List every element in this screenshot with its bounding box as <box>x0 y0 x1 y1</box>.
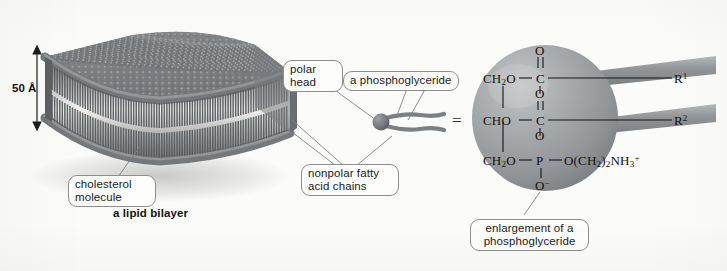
glycerol-c2: CHO <box>483 113 511 129</box>
glycerol-c3: CH2O <box>483 153 516 169</box>
r1-sup: 1 <box>683 71 688 81</box>
lipid-bilayer-figure: 50 Å polar head a phosphoglyceride nonpo… <box>0 0 727 271</box>
equals-sign: = <box>452 111 462 131</box>
head-group-nh: NH <box>611 153 630 168</box>
schematic-tail-2 <box>386 126 444 130</box>
glycerol-c1-o: O <box>506 71 516 86</box>
schematic-phosphoglyceride <box>373 114 445 131</box>
callout-nonpolar-chains[interactable]: nonpolar fatty acid chains <box>301 164 399 196</box>
head-group-o-ch: O(CH <box>564 153 597 168</box>
ester-oxygen-upper: O <box>535 86 545 102</box>
callout-phosphoglyceride[interactable]: a phosphoglyceride <box>343 71 459 91</box>
glycerol-c3-o: O <box>506 153 516 168</box>
schematic-tail-1 <box>386 114 444 118</box>
ethanolamine-group: O(CH2)2NH3+ <box>564 153 640 169</box>
phosphate-oxyanion: O− <box>535 178 550 194</box>
glycerol-c3-ch: CH <box>483 153 501 168</box>
bilayer-caption: a lipid bilayer <box>113 207 188 219</box>
oxyanion-o: O <box>535 178 545 193</box>
callout-polar-head[interactable]: polar head <box>283 60 343 92</box>
ester-oxygen-lower: O <box>535 128 545 144</box>
callout-cholesterol[interactable]: cholesterol molecule <box>68 175 156 207</box>
r2-letter: R <box>674 113 683 128</box>
scale-label: 50 Å <box>12 82 36 94</box>
glycerol-c1-ch: CH <box>483 71 501 86</box>
glycerol-c1: CH2O <box>483 71 516 87</box>
lipid-bilayer <box>43 32 298 161</box>
ester-carbon-2: C <box>536 113 545 129</box>
diagram-artwork <box>0 0 727 271</box>
r1-letter: R <box>674 71 683 86</box>
callout-enlargement[interactable]: enlargement of a phosphoglyceride <box>470 219 589 251</box>
schematic-polar-head <box>373 114 390 131</box>
carbonyl-oxygen-1: O <box>535 43 545 59</box>
r2-label: R2 <box>674 113 687 129</box>
oxyanion-charge: − <box>545 178 550 188</box>
r2-sup: 2 <box>683 113 688 123</box>
r1-label: R1 <box>674 71 687 87</box>
ester-carbon-1: C <box>536 71 545 87</box>
bilayer-left-cap <box>45 57 52 122</box>
head-group-charge: + <box>634 153 639 163</box>
phosphorus-atom: P <box>536 153 543 169</box>
